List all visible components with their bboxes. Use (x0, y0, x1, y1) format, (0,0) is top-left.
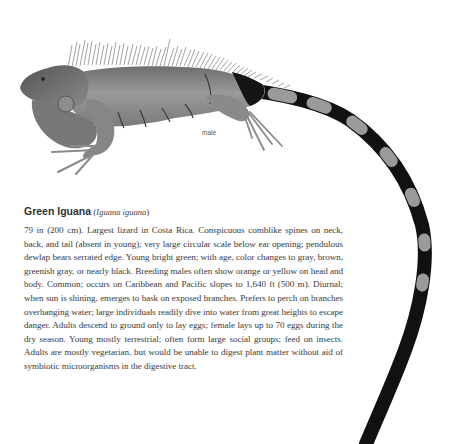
species-description: 79 in (200 cm). Largest lizard in Costa … (24, 224, 343, 374)
paren-close: ) (146, 207, 149, 217)
species-entry: Green Iguana (Iguana iguana) 79 in (200 … (24, 203, 343, 374)
figure-caption: male (202, 129, 216, 136)
scientific-name: Iguana iguana (96, 207, 146, 217)
iguana-head (20, 65, 89, 108)
ear-scale (58, 96, 74, 112)
common-name: Green Iguana (24, 205, 91, 217)
eye (41, 77, 45, 81)
entry-title: Green Iguana (Iguana iguana) (24, 203, 343, 219)
